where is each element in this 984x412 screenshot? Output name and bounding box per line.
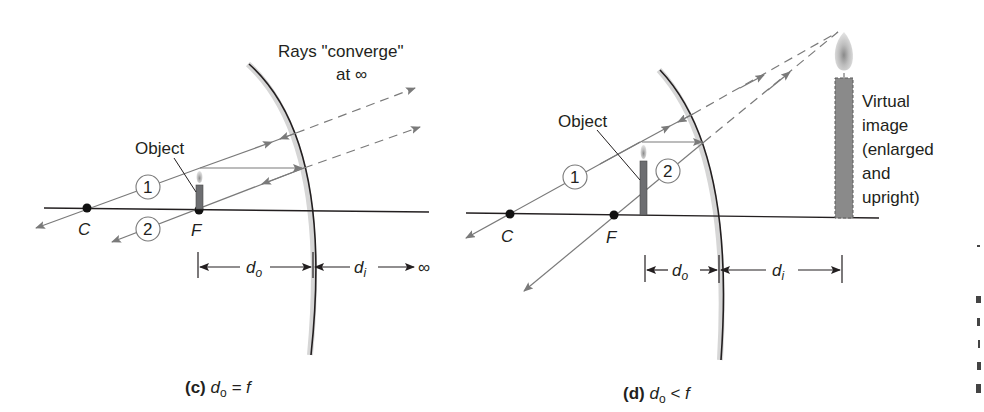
rays-converge-label: Rays "converge" xyxy=(278,42,403,61)
principal-axis-c xyxy=(44,208,429,212)
label-c-point-d: C xyxy=(501,227,514,246)
ray-2-dashed-arrow-d xyxy=(768,72,790,90)
mirror-ray-diagram: C F Object 1 2 Rays "converge" at ∞ do d… xyxy=(0,0,984,412)
label-f-point-c: F xyxy=(191,221,203,240)
caption-d: (d) do < f xyxy=(623,384,692,406)
virtual-image-label-line2: image xyxy=(862,116,908,135)
rays-converge-at-infinity-label: at ∞ xyxy=(336,65,367,84)
virtual-image-label-line1: Virtual xyxy=(862,92,910,111)
infinity-symbol-c: ∞ xyxy=(418,258,430,277)
ray-1-dashed-arrow-d xyxy=(740,75,764,88)
center-of-curvature-point-c xyxy=(83,204,92,213)
do-label-c: do xyxy=(246,258,262,280)
panel-c: C F Object 1 2 Rays "converge" at ∞ do d… xyxy=(36,42,430,400)
label-c-point-c: C xyxy=(78,220,91,239)
ray-2-number-d: 2 xyxy=(663,162,672,181)
virtual-image-candle xyxy=(835,78,853,218)
candle-flame-c xyxy=(197,171,203,183)
object-leader-d xyxy=(597,130,640,180)
mirror-shade-c xyxy=(248,64,314,355)
object-candle-c xyxy=(196,185,203,209)
virtual-image-label-line3: (enlarged xyxy=(862,140,934,159)
virtual-image-label-line4: and xyxy=(862,164,890,183)
ray-2-dashed-c xyxy=(304,127,420,168)
virtual-image-flame xyxy=(835,32,853,71)
ray-1-back-c xyxy=(36,168,200,228)
virtual-image-label-line5: upright) xyxy=(862,188,920,207)
ray-1-dashed-d xyxy=(693,32,838,114)
object-label-c: Object xyxy=(135,139,184,158)
di-label-d: di xyxy=(772,261,784,283)
focal-point-d xyxy=(610,211,619,220)
ray-2-arrow-mid-c xyxy=(262,168,304,184)
principal-axis-d xyxy=(466,213,879,218)
cropped-margin-text xyxy=(976,245,981,393)
center-of-curvature-point-d xyxy=(506,210,515,219)
candle-flame-d xyxy=(641,145,647,159)
ray-1-incident-c xyxy=(200,142,272,168)
ray-1-number-c: 1 xyxy=(143,178,152,197)
caption-c: (c) do = f xyxy=(185,378,253,400)
do-label-d: do xyxy=(672,261,688,283)
panel-d: C F Object 1 2 Virtual image (enlarged a… xyxy=(466,32,934,406)
di-label-c: di xyxy=(354,258,366,280)
label-f-point-d: F xyxy=(606,228,618,247)
ray-1-dashed-c xyxy=(296,88,415,133)
ray-1-number-d: 1 xyxy=(570,168,579,187)
object-label-d: Object xyxy=(558,112,607,131)
object-candle-d xyxy=(640,161,647,215)
ray-2-number-c: 2 xyxy=(143,220,152,239)
concave-mirror-c xyxy=(249,64,316,355)
object-leader-c xyxy=(174,158,196,192)
